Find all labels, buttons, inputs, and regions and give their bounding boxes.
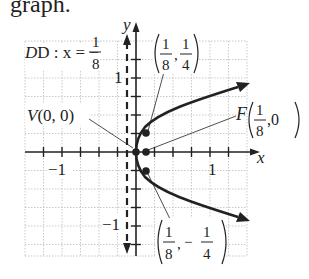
lower-point <box>142 167 150 175</box>
focus-frac-den: 8 <box>256 123 264 139</box>
upper-arrow-icon <box>236 82 250 92</box>
x-tick-neg1: −1 <box>48 160 66 179</box>
upper-y-den: 4 <box>182 57 190 73</box>
focus-frac-num: 1 <box>256 102 264 118</box>
svg-text:DD : x = −: DD : x = − <box>24 43 99 62</box>
parabola-figure: DD : x = − 1 8 y x −1 1 1 −1 V(0, 0) 1 8… <box>0 0 309 279</box>
lower-y-sign: − <box>184 234 192 250</box>
y-tick-pos1: 1 <box>114 68 123 87</box>
vertex-label: V(0, 0) <box>27 106 74 125</box>
directrix-frac-den: 8 <box>92 56 100 72</box>
x-tick-pos1: 1 <box>208 160 217 179</box>
comma: , <box>174 47 178 63</box>
lower-x-num: 1 <box>165 224 173 240</box>
lower-y-num: 1 <box>203 224 211 240</box>
y-tick-neg1: −1 <box>102 215 120 234</box>
focus-label: F <box>235 104 248 124</box>
upper-x-num: 1 <box>162 36 170 52</box>
lower-y-den: 4 <box>203 246 211 262</box>
directrix-frac-num: 1 <box>92 34 100 50</box>
lower-x-den: 8 <box>165 246 173 262</box>
y-axis-label: y <box>121 15 131 34</box>
comma: , <box>177 236 181 252</box>
x-axis-label: x <box>256 148 265 167</box>
upper-x-den: 8 <box>162 57 170 73</box>
upper-point <box>142 129 150 137</box>
focus-frac-tail: ,0 <box>267 111 279 128</box>
lower-arrow-icon <box>236 212 250 222</box>
vertex-point <box>132 148 140 156</box>
upper-y-num: 1 <box>182 36 190 52</box>
